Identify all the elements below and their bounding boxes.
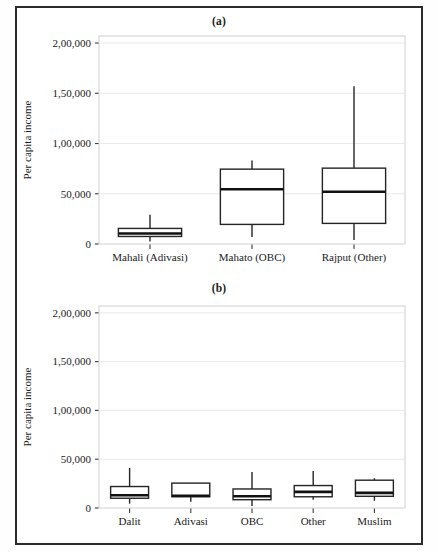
box-iqr [322, 168, 385, 223]
xtick-label: OBC [241, 515, 264, 527]
xtick-label: Rajput (Other) [322, 251, 387, 264]
y-axis-title: Per capita income [21, 367, 33, 446]
ytick-label: 0 [86, 502, 92, 514]
xtick-label: Adivasi [174, 515, 208, 527]
xtick-label: Mahato (OBC) [219, 251, 286, 264]
ytick-label: 1,50,000 [53, 355, 92, 367]
xtick-label: Dalit [119, 515, 141, 527]
ytick-label: 1,00,000 [53, 137, 92, 149]
panel-b-title: (b) [17, 282, 421, 294]
panel-b: (b) 050,0001,00,0001,50,0002,00,000Dalit… [17, 280, 421, 545]
ytick-label: 2,00,000 [53, 307, 92, 319]
ytick-label: 1,50,000 [53, 87, 92, 99]
ytick-label: 1,00,000 [53, 404, 92, 416]
boxplot-chart-b: 050,0001,00,0001,50,0002,00,000DalitAdiv… [17, 294, 425, 545]
boxplot-chart-a: 050,0001,00,0001,50,0002,00,000Mahali (A… [17, 26, 425, 280]
figure-frame: (a) 050,0001,00,0001,50,0002,00,000Mahal… [15, 6, 423, 545]
box-iqr [220, 169, 283, 224]
xtick-label: Other [301, 515, 326, 527]
y-axis-title: Per capita income [21, 100, 33, 179]
ytick-label: 2,00,000 [53, 37, 92, 49]
ytick-label: 50,000 [61, 188, 92, 200]
box-iqr [233, 489, 271, 500]
xtick-label: Muslim [357, 515, 392, 527]
ytick-label: 50,000 [61, 453, 92, 465]
panel-a: (a) 050,0001,00,0001,50,0002,00,000Mahal… [17, 8, 421, 280]
xtick-label: Mahali (Adivasi) [112, 251, 188, 264]
ytick-label: 0 [86, 238, 92, 250]
figure-container: (a) 050,0001,00,0001,50,0002,00,000Mahal… [0, 0, 438, 552]
